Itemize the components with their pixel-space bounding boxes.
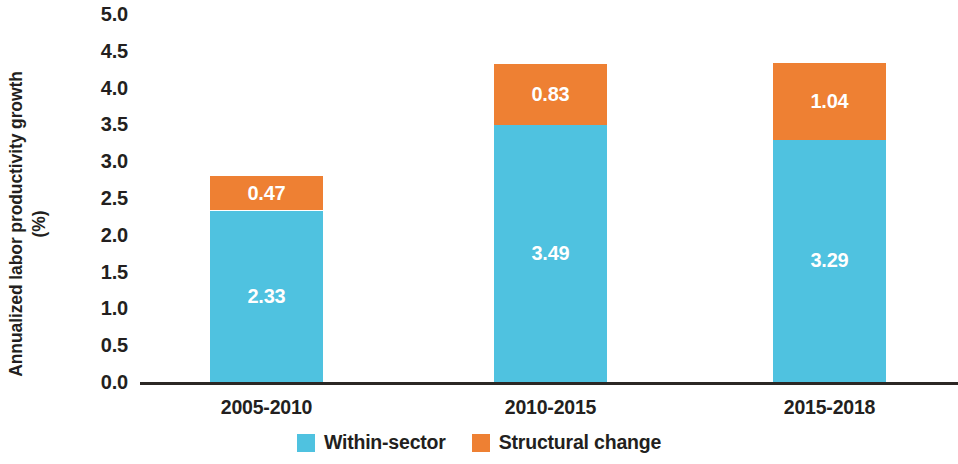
y-axis-tick-label: 1.5 [66, 260, 128, 283]
y-axis-tick-label: 0.0 [66, 371, 128, 394]
bar-segment-within-sector[interactable]: 3.49 [494, 125, 607, 382]
plot-area: 2.330.472005-20103.490.832010-20153.291.… [140, 0, 958, 464]
bar-segment-structural-change[interactable]: 0.83 [494, 64, 607, 125]
y-axis-tick-label: 4.0 [66, 76, 128, 99]
y-axis-tick-label: 3.5 [66, 113, 128, 136]
bar-group: 3.490.83 [494, 0, 607, 382]
bar-value-label: 0.47 [247, 182, 285, 205]
bar-segment-structural-change[interactable]: 0.47 [210, 176, 323, 211]
bar-segment-within-sector[interactable]: 3.29 [773, 140, 886, 382]
y-axis-tick-label: 1.0 [66, 297, 128, 320]
x-axis-tick-label: 2005-2010 [172, 396, 362, 419]
bar-value-label: 0.83 [531, 83, 569, 106]
chart-legend: Within-sectorStructural change [0, 431, 958, 454]
y-axis-tick-labels: 5.04.54.03.53.02.52.01.51.00.50.0 [66, 0, 128, 464]
bar-segment-structural-change[interactable]: 1.04 [773, 63, 886, 140]
y-axis-title-line1: Annualized labor productivity growth [5, 71, 28, 377]
y-axis-tick-label: 5.0 [66, 3, 128, 26]
legend-item[interactable]: Within-sector [297, 431, 446, 454]
bar-value-label: 1.04 [810, 90, 848, 113]
bar-group: 3.291.04 [773, 0, 886, 382]
bar-value-label: 3.29 [810, 249, 848, 272]
legend-label: Within-sector [324, 431, 446, 454]
y-axis-tick-label: 0.5 [66, 334, 128, 357]
x-axis-tick-label: 2010-2015 [456, 396, 646, 419]
bar-value-label: 2.33 [247, 285, 285, 308]
x-axis-tick-label: 2015-2018 [735, 396, 925, 419]
y-axis-tick-label: 2.5 [66, 187, 128, 210]
y-axis-tick-label: 3.0 [66, 150, 128, 173]
y-axis-tick-label: 4.5 [66, 39, 128, 62]
y-axis-title: Annualized labor productivity growth (%) [0, 24, 56, 424]
x-axis-line [140, 382, 958, 385]
legend-label: Structural change [499, 431, 661, 454]
y-axis-title-unit: (%) [28, 211, 51, 238]
bar-group: 2.330.47 [210, 0, 323, 382]
legend-swatch-icon [297, 434, 315, 452]
legend-swatch-icon [472, 434, 490, 452]
y-axis-tick-label: 2.0 [66, 223, 128, 246]
bar-value-label: 3.49 [531, 242, 569, 265]
legend-item[interactable]: Structural change [472, 431, 661, 454]
bar-segment-within-sector[interactable]: 2.33 [210, 211, 323, 382]
stacked-bar-chart: Annualized labor productivity growth (%)… [0, 0, 958, 464]
